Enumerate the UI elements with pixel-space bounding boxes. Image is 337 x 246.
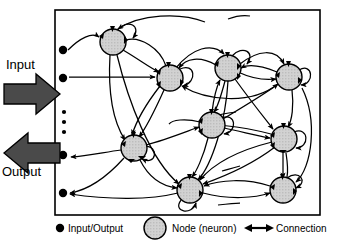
legend-node-marker bbox=[144, 217, 166, 239]
io-arrow-group bbox=[4, 74, 60, 173]
node-n6[interactable] bbox=[271, 126, 297, 152]
node-n9[interactable] bbox=[270, 177, 296, 203]
node-n1[interactable] bbox=[100, 29, 126, 55]
diagram-root: Input Output Input/Output Node (neuron) … bbox=[0, 0, 337, 246]
io-dot[interactable] bbox=[59, 74, 67, 82]
legend-connection-label: Connection bbox=[276, 224, 327, 234]
output-label: Output bbox=[2, 165, 41, 178]
input-label: Input bbox=[6, 58, 35, 71]
node-n5[interactable] bbox=[199, 112, 225, 138]
legend-node-label: Node (neuron) bbox=[172, 224, 236, 234]
node-n8[interactable] bbox=[177, 177, 203, 203]
diagram-canvas bbox=[0, 0, 337, 246]
legend-io-label: Input/Output bbox=[68, 224, 123, 234]
input-arrow-icon bbox=[4, 74, 60, 114]
legend-io-marker bbox=[56, 224, 64, 232]
io-dot[interactable] bbox=[59, 189, 67, 197]
node-n2[interactable] bbox=[157, 65, 183, 91]
node-n4[interactable] bbox=[276, 64, 302, 90]
legend-connection-marker bbox=[244, 224, 274, 232]
io-dot[interactable] bbox=[59, 46, 67, 54]
